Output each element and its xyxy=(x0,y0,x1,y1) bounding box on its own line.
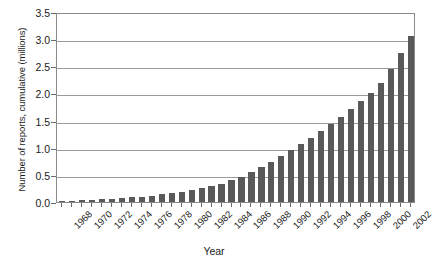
bar xyxy=(179,192,185,202)
bar xyxy=(89,200,95,202)
x-tick-label: 1990 xyxy=(292,209,314,231)
x-tick-mark xyxy=(320,203,321,207)
x-tick-label: 1994 xyxy=(331,209,353,231)
x-tick-label: 1982 xyxy=(212,209,234,231)
x-tick-mark xyxy=(231,203,232,207)
x-tick-mark xyxy=(171,203,172,207)
x-tick-label: 1976 xyxy=(152,209,174,231)
x-tick-mark xyxy=(111,203,112,207)
x-tick-mark xyxy=(330,203,331,207)
y-tick-label: 3.5 xyxy=(10,8,50,18)
x-tick-mark xyxy=(181,203,182,207)
bar xyxy=(348,109,354,202)
x-tick-label: 1984 xyxy=(232,209,254,231)
bar xyxy=(398,53,404,202)
bar xyxy=(79,200,85,202)
x-tick-mark xyxy=(191,203,192,207)
x-tick-mark xyxy=(211,203,212,207)
bar xyxy=(368,93,374,202)
x-tick-label: 1988 xyxy=(272,209,294,231)
bar-series xyxy=(57,14,414,202)
bar xyxy=(119,198,125,202)
bar xyxy=(169,193,175,202)
y-tick-label: 0.0 xyxy=(10,198,50,208)
x-tick-mark xyxy=(310,203,311,207)
y-tick-label: 1.5 xyxy=(10,117,50,127)
bar xyxy=(358,101,364,202)
x-tick-mark xyxy=(81,203,82,207)
x-tick-mark xyxy=(61,203,62,207)
x-tick-mark xyxy=(121,203,122,207)
x-tick-mark xyxy=(340,203,341,207)
x-tick-mark xyxy=(141,203,142,207)
bar xyxy=(338,117,344,202)
bar xyxy=(288,150,294,202)
x-tick-mark xyxy=(350,203,351,207)
bar xyxy=(258,167,264,202)
x-tick-mark xyxy=(151,203,152,207)
bar xyxy=(129,197,135,202)
y-tick-label: 3.0 xyxy=(10,35,50,45)
bar xyxy=(238,177,244,203)
bar xyxy=(228,180,234,202)
x-tick-mark xyxy=(71,203,72,207)
x-tick-label: 2000 xyxy=(391,209,413,231)
bar xyxy=(69,201,75,202)
x-axis-title: Year xyxy=(0,245,428,257)
x-tick-label: 1996 xyxy=(351,209,373,231)
x-tick-mark xyxy=(161,203,162,207)
bar xyxy=(99,199,105,202)
x-tick-mark xyxy=(290,203,291,207)
x-tick-label: 1998 xyxy=(371,209,393,231)
x-tick-mark xyxy=(370,203,371,207)
y-tick-label: 1.0 xyxy=(10,144,50,154)
bar xyxy=(308,138,314,202)
x-tick-mark xyxy=(91,203,92,207)
bar xyxy=(189,190,195,202)
x-tick-mark xyxy=(201,203,202,207)
bar xyxy=(109,199,115,202)
bar xyxy=(278,156,284,202)
bar xyxy=(248,172,254,202)
x-tick-label: 1972 xyxy=(112,209,134,231)
x-tick-mark xyxy=(250,203,251,207)
y-tick-label: 2.0 xyxy=(10,89,50,99)
x-tick-mark xyxy=(270,203,271,207)
bar xyxy=(159,194,165,202)
x-tick-label: 1968 xyxy=(72,209,94,231)
x-tick-mark xyxy=(260,203,261,207)
y-tick-mark xyxy=(51,203,56,204)
x-tick-label: 1992 xyxy=(312,209,334,231)
x-tick-mark xyxy=(400,203,401,207)
y-tick-label: 0.5 xyxy=(10,171,50,181)
bar xyxy=(298,144,304,202)
bar xyxy=(139,197,145,202)
x-tick-mark xyxy=(280,203,281,207)
x-tick-label: 1970 xyxy=(92,209,114,231)
y-tick-label: 2.5 xyxy=(10,62,50,72)
x-tick-mark xyxy=(360,203,361,207)
x-tick-mark xyxy=(390,203,391,207)
bar xyxy=(199,188,205,202)
x-tick-label: 1978 xyxy=(172,209,194,231)
bar xyxy=(318,131,324,202)
x-tick-mark xyxy=(131,203,132,207)
bar xyxy=(328,124,334,202)
bar xyxy=(408,36,414,202)
x-tick-mark xyxy=(240,203,241,207)
x-tick-label: 1986 xyxy=(252,209,274,231)
bar xyxy=(218,184,224,202)
x-tick-mark xyxy=(300,203,301,207)
bar xyxy=(208,186,214,202)
bar xyxy=(59,201,65,202)
bar xyxy=(388,69,394,202)
plot-area xyxy=(56,13,415,203)
x-tick-mark xyxy=(410,203,411,207)
bar xyxy=(378,83,384,202)
bar xyxy=(149,196,155,203)
x-tick-mark xyxy=(380,203,381,207)
x-tick-label: 1980 xyxy=(192,209,214,231)
x-tick-label: 2002 xyxy=(411,209,433,231)
x-tick-label: 1974 xyxy=(132,209,154,231)
